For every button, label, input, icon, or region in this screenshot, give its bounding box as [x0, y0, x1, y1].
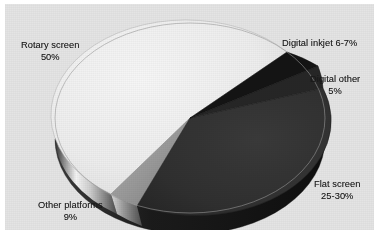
- slice-label-flat-screen-name: Flat screen: [314, 179, 361, 189]
- slice-label-other-platforms-name: Other platforms: [38, 200, 103, 210]
- slice-label-other-platforms: Other platforms 9%: [38, 200, 103, 223]
- slice-label-digital-inkjet-name: Digital inkjet 6-7%: [282, 38, 357, 48]
- chart-canvas: Rotary screen 50% Digital inkjet 6-7% Di…: [5, 4, 374, 230]
- slice-label-flat-screen-value: 25-30%: [314, 191, 361, 203]
- slice-label-digital-inkjet: Digital inkjet 6-7%: [282, 38, 357, 50]
- slice-label-rotary-screen: Rotary screen 50%: [21, 40, 80, 63]
- slice-label-digital-other: Digital other 5%: [310, 74, 360, 97]
- slice-label-digital-other-name: Digital other: [310, 74, 360, 84]
- slice-label-rotary-screen-name: Rotary screen: [21, 40, 80, 50]
- slice-label-rotary-screen-value: 50%: [21, 52, 80, 64]
- slice-label-other-platforms-value: 9%: [38, 212, 103, 224]
- slice-label-digital-other-value: 5%: [310, 86, 360, 98]
- slice-label-flat-screen: Flat screen 25-30%: [314, 179, 361, 202]
- pie-chart-screenshot: Rotary screen 50% Digital inkjet 6-7% Di…: [0, 0, 379, 236]
